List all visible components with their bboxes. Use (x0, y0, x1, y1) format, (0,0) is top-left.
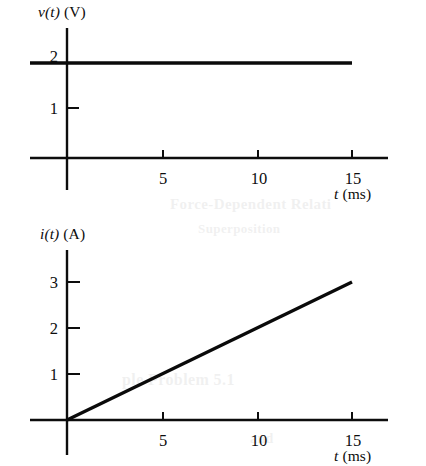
current-signal-trace (67, 282, 352, 420)
current-y-tick-label-2: 2 (50, 319, 58, 338)
voltage-x-axis-title-unit: (ms) (342, 185, 371, 202)
current-y-axis-title: i(t) (A) (40, 226, 85, 242)
current-y-axis-title-symbol: i(t) (40, 225, 59, 242)
current-x-axis-title: t (ms) (334, 448, 371, 464)
current-plot: 5 10 15 1 2 3 (30, 250, 388, 455)
current-x-tick-label-10: 10 (251, 431, 268, 450)
current-y-axis-title-unit: (A) (63, 225, 85, 242)
current-x-tick-label-5: 5 (159, 431, 167, 450)
voltage-plot: 5 10 15 1 2 (30, 28, 388, 190)
voltage-x-axis-title: t (ms) (334, 186, 371, 202)
voltage-y-axis-title: v(t) (V) (38, 4, 86, 20)
current-x-axis-title-unit: (ms) (342, 447, 371, 464)
current-y-tick-label-3: 3 (50, 273, 58, 292)
voltage-x-tick-label-5: 5 (159, 169, 167, 188)
voltage-y-tick-label-2: 2 (50, 47, 58, 66)
voltage-y-tick-label-1: 1 (50, 99, 58, 118)
voltage-x-tick-label-10: 10 (251, 169, 268, 188)
voltage-y-axis-title-unit: (V) (64, 3, 86, 20)
figure-root: Force-Dependent Relati Superposition ple… (0, 0, 426, 466)
current-y-tick-label-1: 1 (50, 365, 58, 384)
voltage-y-axis-title-symbol: v(t) (38, 3, 60, 20)
